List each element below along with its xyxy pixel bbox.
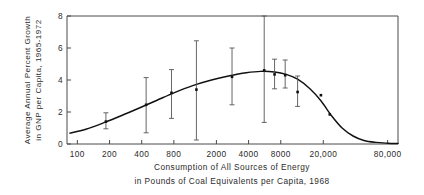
error-bars bbox=[103, 16, 300, 140]
y-axis-title-line1: Average Annual Percent Growth bbox=[23, 16, 32, 145]
data-point-marker bbox=[170, 92, 173, 95]
x-tick-label: 200 bbox=[102, 149, 117, 159]
data-point-marker bbox=[328, 113, 331, 116]
chart-figure: 02468 10020040080020004000800020,00080,0… bbox=[0, 0, 424, 195]
x-axis-title: Consumption of All Sources of Energy in … bbox=[134, 162, 329, 186]
data-point-marker bbox=[195, 88, 198, 91]
curve-path bbox=[70, 71, 398, 143]
y-axis-title: Average Annual Percent Growth in GNP per… bbox=[23, 16, 43, 145]
y-tick-label: 6 bbox=[58, 43, 63, 53]
data-point-marker bbox=[105, 120, 108, 123]
chart-canvas: 02468 10020040080020004000800020,00080,0… bbox=[0, 0, 424, 195]
x-tick-label: 80,000 bbox=[374, 149, 402, 159]
data-point-marker bbox=[320, 94, 323, 97]
fitted-curve bbox=[70, 71, 398, 143]
data-point-marker bbox=[296, 91, 299, 94]
x-tick-label: 8000 bbox=[271, 149, 291, 159]
x-tick-label: 400 bbox=[134, 149, 149, 159]
x-tick-label: 20,000 bbox=[309, 149, 337, 159]
y-tick-label: 0 bbox=[58, 139, 63, 149]
y-axis-tick-labels: 02468 bbox=[58, 11, 63, 149]
x-tick-label: 100 bbox=[70, 149, 85, 159]
x-axis-title-line2: in Pounds of Coal Equivalents per Capita… bbox=[134, 176, 329, 186]
x-axis-title-line1: Consumption of All Sources of Energy bbox=[154, 162, 310, 172]
data-point-marker bbox=[145, 104, 148, 107]
x-tick-label: 2000 bbox=[206, 149, 226, 159]
y-axis-title-line2: in GNP per Capita, 1965-1972 bbox=[34, 19, 43, 140]
data-point-marker bbox=[284, 74, 287, 77]
x-axis-tick-labels: 10020040080020004000800020,00080,000 bbox=[70, 149, 402, 159]
y-axis-ticks bbox=[67, 16, 71, 144]
data-point-markers bbox=[105, 69, 331, 123]
y-tick-label: 8 bbox=[58, 11, 63, 21]
axis-frame bbox=[67, 16, 398, 144]
data-point-marker bbox=[263, 69, 266, 72]
x-axis-ticks bbox=[77, 140, 387, 144]
x-tick-label: 800 bbox=[166, 149, 181, 159]
data-point-marker bbox=[273, 73, 276, 76]
plot-frame bbox=[67, 16, 398, 144]
y-tick-label: 2 bbox=[58, 107, 63, 117]
data-point-marker bbox=[231, 76, 234, 79]
x-tick-label: 4000 bbox=[239, 149, 259, 159]
y-tick-label: 4 bbox=[58, 75, 63, 85]
